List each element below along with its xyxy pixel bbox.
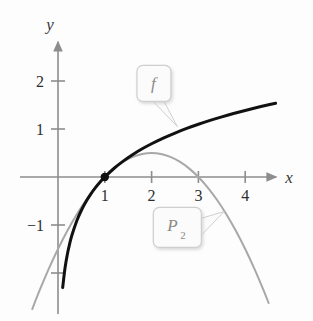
y-tick-label--1: −1 [27,217,44,234]
p2-callout-subscript: 2 [180,229,186,241]
data-points-group [101,173,109,181]
x-axis-label: x [284,168,293,187]
x-tick-label-4: 4 [241,187,249,204]
y-tick-label-2: 2 [36,73,44,90]
taylor-polynomial-plot: 123421−1 x y f P 2 [0,0,313,321]
y-tick-label-1: 1 [36,121,44,138]
x-tick-label-3: 3 [194,187,202,204]
p2-callout-label: P [166,216,177,235]
x-tick-label-2: 2 [148,187,156,204]
tangency-point [101,173,109,181]
x-tick-label-1: 1 [101,187,109,204]
y-axis-label: y [44,15,54,34]
figure-container: 123421−1 x y f P 2 [0,0,313,321]
